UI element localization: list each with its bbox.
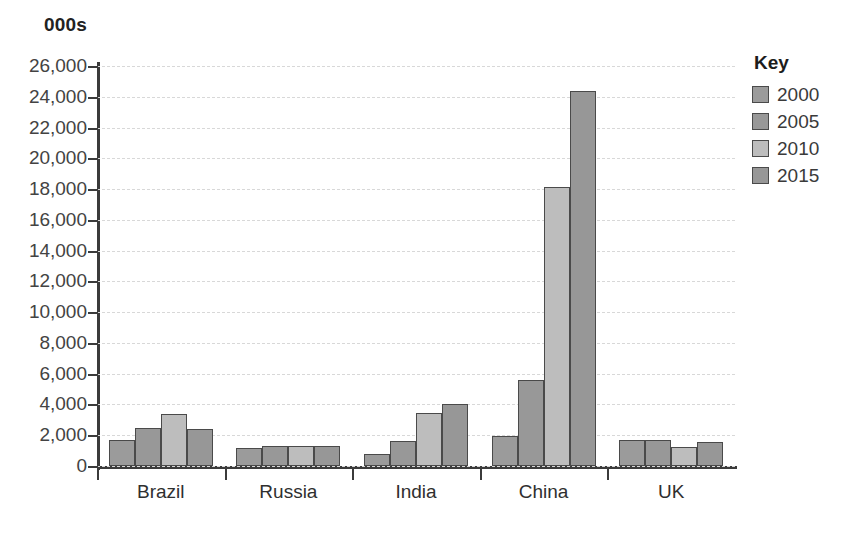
y-axis-tick-mark: [88, 435, 98, 437]
bar[interactable]: [187, 429, 213, 466]
bar-group: [492, 66, 596, 466]
bar[interactable]: [364, 454, 390, 466]
bar[interactable]: [109, 440, 135, 466]
bar[interactable]: [288, 446, 314, 466]
y-axis-tick-label: 16,000: [1, 209, 87, 231]
bar[interactable]: [135, 428, 161, 466]
y-axis-tick-label: 8,000: [1, 332, 87, 354]
x-axis-tick-mark: [225, 469, 227, 480]
x-axis-tick-mark: [352, 469, 354, 480]
bar[interactable]: [314, 446, 340, 466]
y-axis-tick-mark: [88, 66, 98, 68]
bar[interactable]: [236, 448, 262, 466]
bar[interactable]: [544, 187, 570, 466]
legend-item[interactable]: 2000: [752, 81, 838, 108]
bar-chart: 000s 26,00024,00022,00020,00018,00016,00…: [0, 0, 842, 534]
legend-item[interactable]: 2010: [752, 135, 838, 162]
y-axis-tick-label: 10,000: [1, 301, 87, 323]
y-axis-tick-mark: [88, 312, 98, 314]
y-axis-tick-mark: [88, 343, 98, 345]
y-axis-tick-label: 26,000: [1, 55, 87, 77]
y-axis-tick-mark: [88, 466, 98, 468]
y-axis-tick-mark: [88, 128, 98, 130]
bar[interactable]: [518, 380, 544, 466]
bar[interactable]: [570, 91, 596, 466]
bar[interactable]: [390, 441, 416, 466]
legend-item-label: 2005: [777, 111, 819, 133]
y-axis-tick-mark: [88, 404, 98, 406]
bar[interactable]: [492, 436, 518, 466]
y-axis-tick-label: 6,000: [1, 363, 87, 385]
bar[interactable]: [161, 414, 187, 466]
x-axis-category-label: China: [480, 481, 608, 503]
bar[interactable]: [645, 440, 671, 466]
y-axis-unit-label: 000s: [44, 14, 87, 36]
legend-item-label: 2010: [777, 138, 819, 160]
legend: Key 2000200520102015: [752, 52, 838, 189]
legend-item[interactable]: 2005: [752, 108, 838, 135]
bar[interactable]: [671, 447, 697, 466]
x-axis-category-label: India: [352, 481, 480, 503]
plot-area: 26,00024,00022,00020,00018,00016,00014,0…: [97, 66, 735, 466]
y-axis-tick-label: 2,000: [1, 424, 87, 446]
bar-group: [364, 66, 468, 466]
y-axis-tick-label: 22,000: [1, 117, 87, 139]
legend-title: Key: [754, 52, 838, 74]
y-axis-tick-label: 24,000: [1, 86, 87, 108]
x-axis-tick-mark: [480, 469, 482, 480]
y-axis-tick-mark: [88, 251, 98, 253]
x-axis-category-label: Russia: [225, 481, 353, 503]
legend-item[interactable]: 2015: [752, 162, 838, 189]
y-axis-tick-mark: [88, 281, 98, 283]
y-axis-tick-mark: [88, 158, 98, 160]
bar-group: [236, 66, 340, 466]
gridline: [97, 466, 735, 467]
legend-item-label: 2000: [777, 84, 819, 106]
y-axis-tick-label: 12,000: [1, 270, 87, 292]
legend-swatch-icon: [752, 113, 769, 130]
bar-group: [619, 66, 723, 466]
bar[interactable]: [262, 446, 288, 466]
y-axis-tick-label: 0: [1, 455, 87, 477]
legend-item-label: 2015: [777, 165, 819, 187]
legend-items: 2000200520102015: [752, 81, 838, 189]
bar-group: [109, 66, 213, 466]
bar[interactable]: [416, 413, 442, 466]
x-axis-tick-mark: [607, 469, 609, 480]
y-axis-tick-label: 20,000: [1, 147, 87, 169]
legend-swatch-icon: [752, 86, 769, 103]
legend-swatch-icon: [752, 140, 769, 157]
y-axis-tick-label: 18,000: [1, 178, 87, 200]
legend-swatch-icon: [752, 167, 769, 184]
x-axis-category-label: Brazil: [97, 481, 225, 503]
bar[interactable]: [619, 440, 645, 466]
y-axis-tick-mark: [88, 189, 98, 191]
bar[interactable]: [442, 404, 468, 466]
y-axis-tick-mark: [88, 220, 98, 222]
x-axis-category-label: UK: [607, 481, 735, 503]
y-axis-tick-mark: [88, 97, 98, 99]
y-axis-tick-mark: [88, 374, 98, 376]
bar[interactable]: [697, 442, 723, 466]
y-axis-tick-label: 4,000: [1, 393, 87, 415]
x-axis-tick-mark: [97, 469, 99, 480]
y-axis-tick-label: 14,000: [1, 240, 87, 262]
